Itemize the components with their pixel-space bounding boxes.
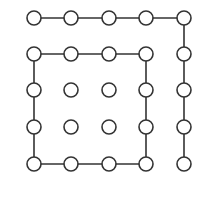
node-r2c3 bbox=[139, 83, 153, 97]
node-r4c2 bbox=[102, 157, 116, 171]
node-r0c3 bbox=[139, 11, 153, 25]
grid-path-diagram bbox=[0, 0, 209, 197]
node-r0c4 bbox=[177, 11, 191, 25]
node-r0c1 bbox=[64, 11, 78, 25]
node-r1c2 bbox=[102, 47, 116, 61]
node-r3c0 bbox=[27, 120, 41, 134]
node-r2c2 bbox=[102, 83, 116, 97]
node-r2c0 bbox=[27, 83, 41, 97]
node-r2c1 bbox=[64, 83, 78, 97]
node-r0c0 bbox=[27, 11, 41, 25]
node-r3c4 bbox=[177, 120, 191, 134]
node-r1c4 bbox=[177, 47, 191, 61]
node-r1c3 bbox=[139, 47, 153, 61]
node-layer bbox=[27, 11, 191, 171]
node-r3c3 bbox=[139, 120, 153, 134]
node-r4c4 bbox=[177, 157, 191, 171]
node-r4c1 bbox=[64, 157, 78, 171]
node-r4c0 bbox=[27, 157, 41, 171]
node-r3c2 bbox=[102, 120, 116, 134]
node-r3c1 bbox=[64, 120, 78, 134]
node-r1c1 bbox=[64, 47, 78, 61]
node-r1c0 bbox=[27, 47, 41, 61]
node-r0c2 bbox=[102, 11, 116, 25]
node-r2c4 bbox=[177, 83, 191, 97]
node-r4c3 bbox=[139, 157, 153, 171]
